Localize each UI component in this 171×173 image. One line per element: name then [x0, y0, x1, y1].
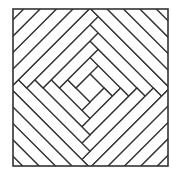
- diamond-strip-rings: [0, 0, 171, 173]
- log-cabin-diamond-pattern: [0, 0, 171, 173]
